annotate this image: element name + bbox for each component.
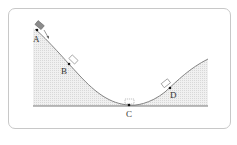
- block-at-b: [69, 55, 78, 64]
- point-a-marker: [36, 29, 39, 32]
- block-at-d: [161, 79, 170, 88]
- point-c-marker: [128, 104, 131, 107]
- point-c-label: C: [126, 109, 132, 119]
- track-fill: [33, 28, 208, 106]
- point-d-label: D: [170, 90, 177, 100]
- block-at-c: [125, 99, 134, 104]
- point-d-marker: [169, 87, 172, 90]
- track-diagram: A B C D: [0, 0, 237, 145]
- block-at-a: [35, 21, 44, 30]
- point-b-label: B: [61, 66, 67, 76]
- point-a-label: A: [33, 34, 40, 44]
- point-b-marker: [68, 63, 71, 66]
